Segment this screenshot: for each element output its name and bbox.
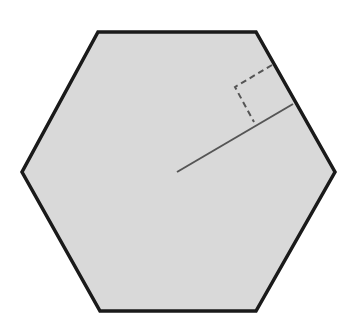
hexagon-diagram (0, 0, 351, 330)
diagram-canvas (0, 0, 351, 330)
